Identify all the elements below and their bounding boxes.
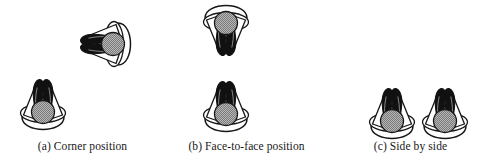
figure-container: (a) Corner position (b) Face-to-face pos…	[0, 0, 493, 167]
panel-corner-position: (a) Corner position	[0, 0, 165, 167]
seat-lower-left	[11, 67, 75, 131]
seat-upper	[194, 4, 258, 68]
seat-lower	[194, 69, 258, 133]
panel-a-caption: (a) Corner position	[0, 139, 165, 153]
panel-face-to-face-position: (b) Face-to-face position	[165, 0, 328, 167]
panel-b-caption: (b) Face-to-face position	[165, 139, 328, 153]
panel-side-by-side: (c) Side by side	[328, 0, 493, 167]
panel-c-caption: (c) Side by side	[328, 139, 493, 153]
seat-right	[413, 76, 477, 140]
seat-upper-right	[68, 12, 132, 76]
